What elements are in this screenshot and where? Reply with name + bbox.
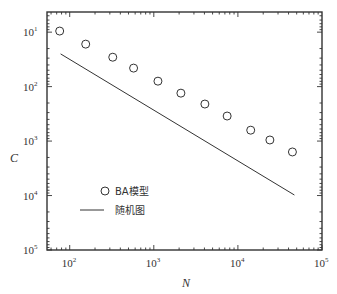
y-tick-label: 102 <box>23 80 38 93</box>
y-tick-label: 101 <box>23 25 38 38</box>
data-point-ba-model <box>109 53 117 61</box>
data-point-ba-model <box>82 40 90 48</box>
legend-circle-icon <box>101 187 109 195</box>
y-tick-label: 103 <box>23 134 38 147</box>
legend-label: 随机图 <box>115 204 145 216</box>
data-point-ba-model <box>247 126 255 134</box>
x-tick-label: 103 <box>146 256 161 269</box>
x-tick-label: 105 <box>314 256 329 269</box>
x-axis-label: N <box>181 276 191 290</box>
y-tick-label: 104 <box>23 189 38 202</box>
x-tick-label: 104 <box>230 256 245 269</box>
legend: BA模型随机图 <box>80 185 149 216</box>
y-tick-label: 105 <box>23 243 38 256</box>
data-point-ba-model <box>56 27 64 35</box>
chart: 102103104105 101102103104105 BA模型随机图 C N <box>0 0 337 294</box>
y-axis-label: C <box>10 151 19 165</box>
data-point-ba-model <box>154 77 162 85</box>
legend-label: BA模型 <box>115 185 149 197</box>
data-point-ba-model <box>266 136 274 144</box>
data-point-ba-model <box>177 89 185 97</box>
data-point-ba-model <box>223 112 231 120</box>
data-point-ba-model <box>201 100 209 108</box>
data-point-ba-model <box>130 64 138 72</box>
x-axis-ticks: 102103104105 <box>51 12 329 269</box>
x-tick-label: 102 <box>62 256 77 269</box>
random-graph-line <box>61 54 295 195</box>
data-point-ba-model <box>288 148 296 156</box>
plot-series <box>56 27 297 195</box>
y-axis-ticks: 101102103104105 <box>23 16 322 256</box>
